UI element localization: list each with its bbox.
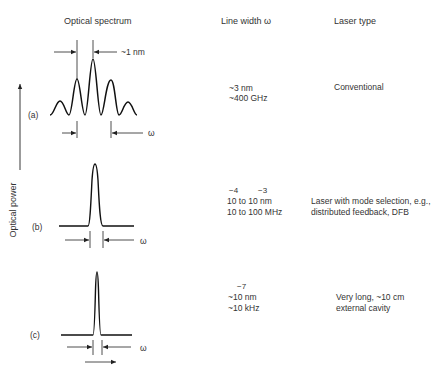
spectra-diagram [0, 0, 446, 372]
y-axis-label: Optical power [8, 175, 18, 245]
row-a-omega: ω [148, 128, 155, 138]
row-b-linewidth-2: 10 to 100 MHz [227, 207, 282, 217]
spectrum-b [59, 164, 134, 248]
row-a-tag: (a) [28, 110, 38, 120]
row-c-omega: ω [140, 343, 147, 353]
row-b-exponent-1: −4 [229, 186, 238, 195]
row-b-linewidth-1: 10 to 10 nm [227, 196, 272, 206]
row-a-linewidth-2: ~400 GHz [229, 93, 268, 103]
row-c-tag: (c) [30, 330, 40, 340]
row-b-laser-type-1: Laser with mode selection, e.g., [311, 196, 431, 206]
spacing-label: ~1 nm [121, 47, 145, 57]
row-c-laser-type-1: Very long, ~10 cm [336, 292, 404, 302]
row-a-linewidth-1: ~3 nm [229, 83, 253, 93]
row-c-linewidth-1: ~10 nm [228, 292, 257, 302]
row-c-linewidth-2: ~10 kHz [228, 303, 259, 313]
row-b-exponent-2: −3 [258, 186, 267, 195]
row-c-exponent: −7 [237, 282, 246, 291]
row-c-laser-type-2: external cavity [336, 303, 390, 313]
spectrum-c [61, 272, 132, 362]
row-b-tag: (b) [32, 222, 42, 232]
row-b-omega: ω [140, 236, 147, 246]
row-b-laser-type-2: distributed feedback, DFB [311, 207, 409, 217]
row-a-laser-type: Conventional [334, 82, 384, 92]
